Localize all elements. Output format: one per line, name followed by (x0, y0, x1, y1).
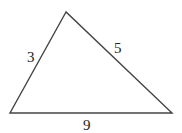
side-label-right: 5 (114, 40, 122, 56)
side-label-base: 9 (83, 117, 91, 133)
side-label-left: 3 (27, 49, 35, 65)
triangle-diagram: 3 5 9 (0, 0, 182, 133)
